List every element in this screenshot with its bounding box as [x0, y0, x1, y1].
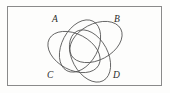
venn-diagram-figure: A B C D: [0, 0, 170, 93]
set-label-c: C: [47, 70, 54, 80]
set-label-d: D: [112, 70, 120, 80]
set-label-b: B: [114, 14, 120, 24]
universal-set-rectangle: [8, 7, 162, 86]
set-label-a: A: [51, 14, 58, 24]
venn-diagram-canvas: A B C D: [0, 0, 170, 93]
